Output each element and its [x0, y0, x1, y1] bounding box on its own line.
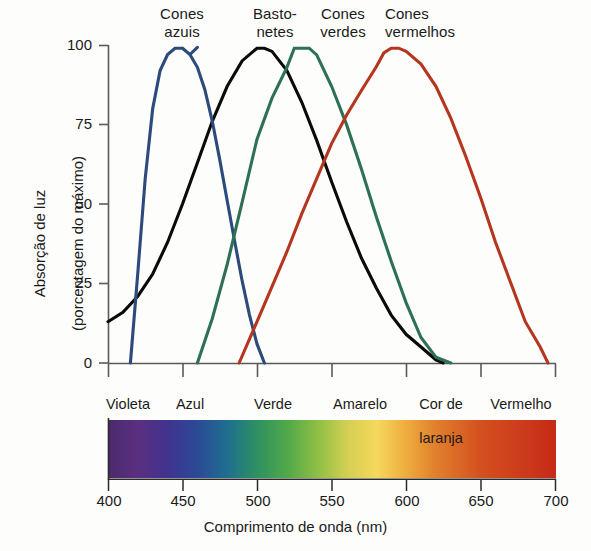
band-label-amarelo: Amarelo [318, 396, 402, 413]
curve-label-cones-verdes-line2: verdes [306, 23, 380, 41]
curve-label-cones-vermelhos-line1: Cones [385, 5, 505, 23]
curve-label-cones-azuis-line1: Cones [134, 5, 230, 23]
curve-bastonetes [108, 48, 443, 363]
x-tick-marks [109, 364, 556, 377]
x-tick-label-550: 550 [307, 492, 357, 509]
absorption-spectrum-figure: Cones azuis Basto- netes Cones verdes Co… [0, 0, 591, 551]
x-tick-label-700: 700 [531, 492, 581, 509]
curve-cones-verdes [197, 48, 450, 363]
curve-cones-azuis [130, 47, 264, 363]
x-tick-label-400: 400 [84, 492, 134, 509]
band-label-cor-de-laranja-line1: Cor de [405, 396, 477, 413]
x-tick-label-600: 600 [382, 492, 432, 509]
band-label-azul: Azul [160, 396, 220, 413]
band-label-vermelho: Vermelho [478, 396, 564, 413]
curve-label-bastonetes: Basto- netes [244, 5, 306, 41]
spectrum-band [108, 418, 556, 491]
curves [108, 47, 548, 363]
band-label-verde: Verde [240, 396, 306, 413]
band-label-cor-de-laranja-line2: laranja [405, 430, 477, 447]
curve-label-cones-azuis-line2: azuis [134, 23, 230, 41]
curve-label-cones-vermelhos-line2: vermelhos [385, 23, 505, 41]
axes [99, 45, 556, 377]
x-tick-label-500: 500 [233, 492, 283, 509]
curve-label-cones-azuis: Cones azuis [134, 5, 230, 41]
y-axis-title: Absorção de luz (porcentagem do máximo) [11, 104, 106, 384]
x-tick-label-650: 650 [456, 492, 506, 509]
x-tick-label-450: 450 [158, 492, 208, 509]
y-axis-title-line1: Absorção de luz [30, 104, 49, 384]
curve-label-cones-vermelhos: Cones vermelhos [385, 5, 505, 41]
y-axis-title-line2: (porcentagem do máximo) [68, 104, 87, 384]
curve-label-cones-verdes-line1: Cones [306, 5, 380, 23]
curve-label-bastonetes-line1: Basto- [244, 5, 306, 23]
band-label-cor-de-laranja: Cor de laranja [405, 379, 477, 464]
band-label-violeta: Violeta [91, 396, 165, 413]
curve-label-cones-verdes: Cones verdes [306, 5, 380, 41]
curve-label-bastonetes-line2: netes [244, 23, 306, 41]
y-tick-label-100: 100 [52, 36, 92, 53]
x-axis-title: Comprimento de onda (nm) [0, 518, 591, 535]
